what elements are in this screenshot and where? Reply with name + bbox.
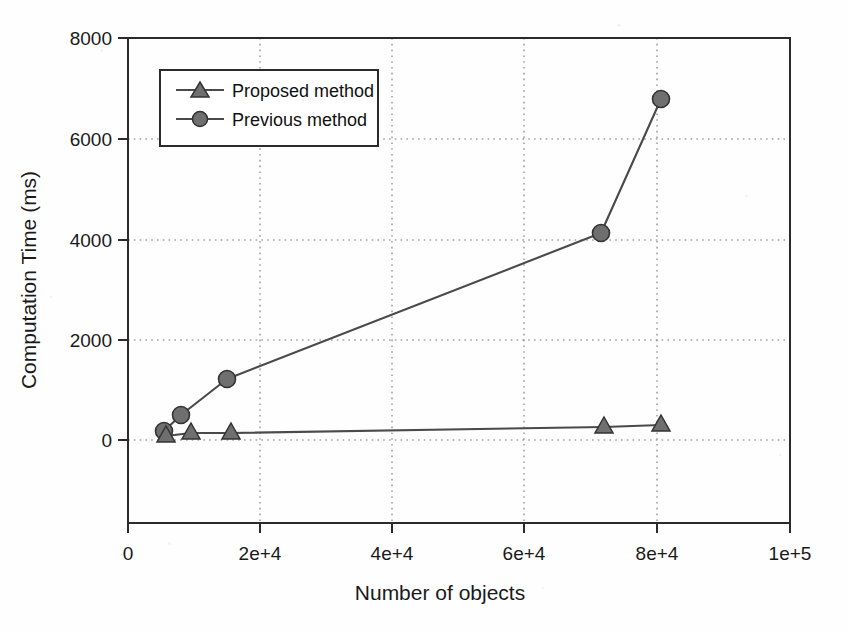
circle-marker-icon (193, 112, 208, 127)
x-axis-title: Number of objects (355, 581, 525, 604)
previous-method-point (173, 407, 190, 424)
legend-label-proposed-method: Proposed method (232, 81, 374, 101)
ytick-label-0: 0 (101, 430, 112, 451)
ytick-label-2000: 2000 (70, 330, 112, 351)
proposed-method-point (595, 417, 613, 433)
series-proposed-method (157, 415, 670, 442)
previous-method-point (219, 371, 236, 388)
ytick-label-8000: 8000 (70, 28, 112, 49)
xtick-label-6e4: 6e+4 (503, 543, 546, 564)
previous-method-line (164, 99, 661, 431)
previous-method-point (593, 225, 610, 242)
ytick-label-4000: 4000 (70, 230, 112, 251)
ytick-label-6000: 6000 (70, 129, 112, 150)
previous-method-point (653, 91, 670, 108)
chart-page: 8000 6000 4000 2000 0 0 2e+4 4e+4 6e+4 8… (0, 0, 848, 632)
chart-legend[interactable]: Proposed method Previous method (160, 70, 378, 146)
xtick-label-2e4: 2e+4 (239, 543, 282, 564)
y-axis-title: Computation Time (ms) (17, 171, 40, 389)
xtick-label-4e4: 4e+4 (371, 543, 414, 564)
proposed-method-point (182, 423, 200, 439)
proposed-method-point (652, 415, 670, 431)
xtick-label-0: 0 (123, 543, 134, 564)
proposed-method-line (166, 425, 661, 436)
y-axis-ticks (118, 38, 128, 440)
xtick-label-1e5: 1e+5 (769, 543, 812, 564)
xtick-label-8e4: 8e+4 (636, 543, 679, 564)
proposed-method-point (222, 423, 240, 439)
x-axis-ticks (128, 523, 790, 533)
legend-label-previous-method: Previous method (232, 110, 367, 130)
computation-time-line-chart: 8000 6000 4000 2000 0 0 2e+4 4e+4 6e+4 8… (0, 0, 848, 632)
